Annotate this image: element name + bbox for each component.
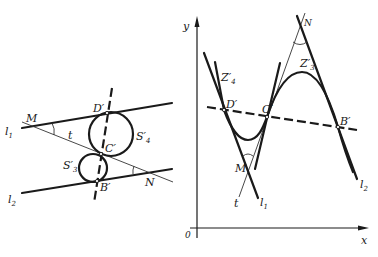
label-n: N [303, 18, 313, 28]
circle-s3 [79, 154, 107, 182]
axis-label-origin: 0 [185, 230, 191, 240]
point-d [105, 111, 108, 114]
label-t: t [234, 197, 239, 210]
axis-label-y: y [182, 20, 190, 33]
y-axis-arrow-icon [195, 16, 200, 27]
left-figure: l1 l2 M t D′ C′ B′ N S′4 S′3 [5, 88, 173, 208]
label-c: C′ [105, 142, 116, 155]
label-l1: l1 [5, 125, 13, 140]
x-axis-arrow-icon [358, 226, 369, 231]
label-d: D′ [92, 102, 105, 115]
label-b: B′ [339, 115, 351, 128]
label-n: N [144, 176, 155, 189]
diagram-canvas: l1 l2 M t D′ C′ B′ N S′4 S′3 y x 0 [0, 0, 378, 257]
label-z4: Z′4 [220, 71, 236, 86]
point-b [95, 179, 98, 182]
label-l2: l2 [8, 193, 17, 208]
label-b: B′ [99, 181, 111, 194]
label-d: D′ [225, 98, 238, 111]
label-s4: S′4 [136, 130, 151, 145]
point-c [99, 152, 102, 155]
angle-arc-m [243, 154, 253, 156]
label-t: t [68, 129, 73, 142]
label-l1: l1 [260, 196, 268, 211]
axis-label-x: x [361, 234, 368, 247]
label-c: C′ [262, 103, 273, 116]
label-m: M [25, 112, 38, 125]
label-l2: l2 [360, 178, 369, 193]
right-figure: y x 0 Z′4 Z′3 D′ C′ B′ M N t l1 l2 [182, 13, 369, 247]
angle-arc-m [52, 123, 54, 135]
angle-arc-n [133, 166, 134, 174]
angle-arc-n [293, 42, 307, 45]
label-s3: S′3 [63, 159, 78, 174]
label-m: M [234, 162, 247, 175]
